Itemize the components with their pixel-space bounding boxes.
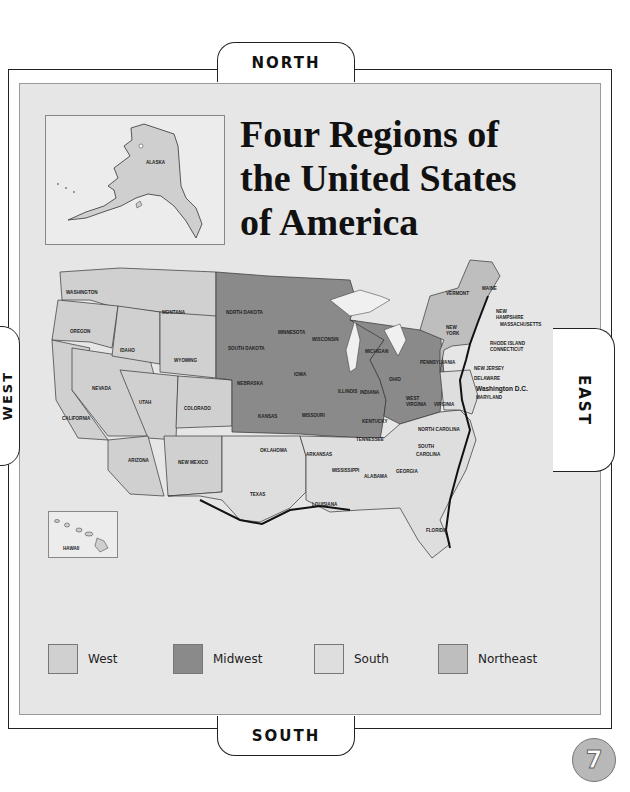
svg-text:SOUTH DAKOTA: SOUTH DAKOTA (228, 346, 265, 351)
legend-swatch-midwest (173, 644, 203, 674)
svg-text:YORK: YORK (446, 331, 460, 336)
svg-text:ARIZONA: ARIZONA (128, 458, 150, 463)
page-number-badge: 7 (572, 738, 616, 782)
svg-text:ILLINOIS: ILLINOIS (338, 389, 357, 394)
svg-text:NEVADA: NEVADA (92, 386, 112, 391)
svg-text:RHODE ISLAND: RHODE ISLAND (490, 341, 526, 346)
svg-text:WASHINGTON: WASHINGTON (66, 290, 98, 295)
svg-text:NORTH DAKOTA: NORTH DAKOTA (226, 310, 264, 315)
svg-text:TENNESSEE: TENNESSEE (356, 437, 384, 442)
svg-text:KENTUCKY: KENTUCKY (362, 419, 388, 424)
svg-text:MAINE: MAINE (482, 286, 497, 291)
svg-text:INDIANA: INDIANA (360, 390, 380, 395)
svg-text:NEW JERSEY: NEW JERSEY (474, 366, 504, 371)
svg-text:GEORGIA: GEORGIA (396, 469, 418, 474)
svg-text:VERMONT: VERMONT (446, 291, 469, 296)
legend-swatch-west (48, 644, 78, 674)
svg-text:MINNESOTA: MINNESOTA (278, 330, 306, 335)
svg-text:LOUISIANA: LOUISIANA (312, 502, 338, 507)
svg-text:HAMPSHIRE: HAMPSHIRE (496, 315, 524, 320)
svg-text:NEBRASKA: NEBRASKA (237, 381, 264, 386)
svg-text:FLORIDA: FLORIDA (426, 528, 447, 533)
svg-text:WEST: WEST (406, 396, 419, 401)
page-number: 7 (586, 746, 603, 774)
svg-text:WYOMING: WYOMING (174, 358, 197, 363)
svg-text:KANSAS: KANSAS (258, 414, 277, 419)
svg-text:OHIO: OHIO (389, 377, 401, 382)
svg-text:IOWA: IOWA (294, 372, 307, 377)
map-legend: West Midwest South Northeast (48, 644, 548, 678)
svg-text:MASSACHUSETTS: MASSACHUSETTS (500, 322, 541, 327)
svg-text:MICHIGAN: MICHIGAN (365, 349, 389, 354)
svg-text:NEW: NEW (446, 325, 457, 330)
svg-text:CONNECTICUT: CONNECTICUT (490, 347, 524, 352)
svg-text:MONTANA: MONTANA (162, 310, 186, 315)
svg-text:TEXAS: TEXAS (250, 492, 265, 497)
legend-northeast: Northeast (438, 644, 537, 674)
svg-text:PENNSYLVANIA: PENNSYLVANIA (420, 360, 456, 365)
svg-text:OREGON: OREGON (70, 329, 91, 334)
svg-text:CALIFORNIA: CALIFORNIA (62, 416, 91, 421)
svg-text:IDAHO: IDAHO (120, 348, 135, 353)
svg-text:NEW MEXICO: NEW MEXICO (178, 460, 209, 465)
svg-text:CAROLINA: CAROLINA (416, 452, 441, 457)
svg-text:ALABAMA: ALABAMA (364, 474, 388, 479)
svg-text:Washington D.C.: Washington D.C. (476, 385, 528, 393)
svg-text:VIRGINIA: VIRGINIA (434, 402, 455, 407)
svg-text:COLORADO: COLORADO (184, 406, 211, 411)
svg-text:VIRGINIA: VIRGINIA (406, 402, 427, 407)
legend-midwest: Midwest (173, 644, 262, 674)
svg-text:MISSOURI: MISSOURI (302, 413, 325, 418)
svg-text:UTAH: UTAH (139, 400, 152, 405)
legend-swatch-northeast (438, 644, 468, 674)
svg-text:OKLAHOMA: OKLAHOMA (260, 448, 288, 453)
svg-text:MISSISSIPPI: MISSISSIPPI (332, 468, 359, 473)
legend-swatch-south (314, 644, 344, 674)
svg-text:ARKANSAS: ARKANSAS (306, 452, 332, 457)
svg-text:DELAWARE: DELAWARE (474, 376, 500, 381)
svg-text:NEW: NEW (496, 309, 507, 314)
legend-south: South (314, 644, 389, 674)
svg-text:WISCONSIN: WISCONSIN (312, 337, 339, 342)
svg-text:NORTH CAROLINA: NORTH CAROLINA (418, 427, 461, 432)
svg-text:SOUTH: SOUTH (418, 444, 435, 449)
legend-west: West (48, 644, 118, 674)
svg-text:MARYLAND: MARYLAND (476, 395, 503, 400)
